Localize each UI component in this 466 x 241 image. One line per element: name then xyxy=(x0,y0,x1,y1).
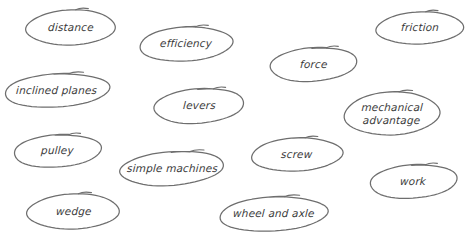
concept-bubble-label-pulley: pulley xyxy=(41,145,74,157)
concept-map-canvas: distanceefficiencyforcefrictioninclined … xyxy=(0,0,466,241)
concept-bubble-work[interactable]: work xyxy=(368,163,459,200)
concept-bubble-inclined-planes[interactable]: inclined planes xyxy=(3,72,111,109)
concept-bubble-label-friction: friction xyxy=(401,22,440,34)
concept-bubble-label-wheel-and-axle: wheel and axle xyxy=(232,208,314,220)
concept-bubble-screw[interactable]: screw xyxy=(250,136,344,173)
concept-bubble-label-inclined-planes: inclined planes xyxy=(16,85,98,97)
concept-bubble-levers[interactable]: levers xyxy=(152,87,246,125)
concept-bubble-wheel-and-axle[interactable]: wheel and axle xyxy=(218,195,329,233)
concept-bubble-label-efficiency: efficiency xyxy=(160,38,213,50)
concept-bubble-label-mechanical-advantage: mechanical advantage xyxy=(360,101,423,127)
concept-bubble-label-wedge: wedge xyxy=(55,206,91,218)
concept-bubble-force[interactable]: force xyxy=(268,46,359,83)
concept-bubble-mechanical-advantage[interactable]: mechanical advantage xyxy=(343,90,441,137)
concept-bubble-pulley[interactable]: pulley xyxy=(12,133,103,169)
concept-bubble-efficiency[interactable]: efficiency xyxy=(138,25,234,63)
concept-bubble-distance[interactable]: distance xyxy=(25,8,117,47)
concept-bubble-label-simple-machines: simple machines xyxy=(126,163,217,175)
concept-bubble-label-force: force xyxy=(299,59,327,71)
concept-bubble-friction[interactable]: friction xyxy=(375,10,465,46)
concept-bubble-wedge[interactable]: wedge xyxy=(26,192,121,231)
concept-bubble-label-work: work xyxy=(400,176,427,188)
concept-bubble-simple-machines[interactable]: simple machines xyxy=(118,150,226,187)
concept-bubble-label-screw: screw xyxy=(281,149,313,161)
concept-bubble-label-distance: distance xyxy=(48,22,94,34)
concept-bubble-label-levers: levers xyxy=(182,100,215,112)
